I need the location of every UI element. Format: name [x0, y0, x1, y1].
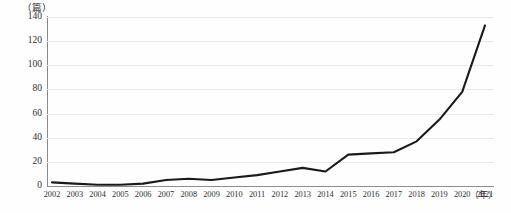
x-tick-label: 2004: [89, 191, 106, 199]
x-tick-label: 2011: [249, 191, 265, 199]
series-layer: [47, 17, 494, 186]
x-tick-label: 2016: [363, 191, 380, 199]
x-tick-label: 2013: [294, 191, 311, 199]
x-axis-baseline: [47, 186, 494, 187]
y-tick-label: 100: [28, 60, 42, 70]
y-tick-label: 120: [28, 36, 42, 46]
x-tick-label: 2014: [317, 191, 334, 199]
x-tick-label: 2015: [340, 191, 357, 199]
x-tick-label: 2002: [44, 191, 61, 199]
y-tick-label: 40: [33, 133, 43, 143]
series-line-papers: [52, 25, 485, 184]
x-axis-unit-label: （年）: [470, 191, 497, 200]
x-tick-label: 2019: [431, 191, 448, 199]
x-tick-label: 2017: [386, 191, 403, 199]
x-axis-tick-labels: 2002200320042005200620072008200920102011…: [47, 191, 494, 205]
x-tick-label: 2007: [158, 191, 175, 199]
y-tick-label: 140: [28, 12, 42, 22]
x-tick-label: 2010: [226, 191, 243, 199]
y-tick-label: 60: [33, 109, 43, 119]
x-tick-label: 2005: [112, 191, 129, 199]
x-tick-label: 2008: [180, 191, 197, 199]
y-tick-label: 0: [37, 181, 42, 191]
x-tick-label: 2009: [203, 191, 220, 199]
y-tick-label: 80: [33, 84, 43, 94]
x-tick-label: 2018: [408, 191, 425, 199]
chart-figure: （篇） 020406080100120140 20022003200420052…: [0, 0, 511, 213]
plot-area: [47, 17, 494, 186]
y-axis-tick-labels: 020406080100120140: [0, 17, 42, 186]
x-tick-label: 2012: [272, 191, 289, 199]
y-tick-label: 20: [33, 157, 43, 167]
x-tick-label: 2006: [135, 191, 152, 199]
x-tick-label: 2020: [454, 191, 471, 199]
x-tick-label: 2003: [66, 191, 83, 199]
